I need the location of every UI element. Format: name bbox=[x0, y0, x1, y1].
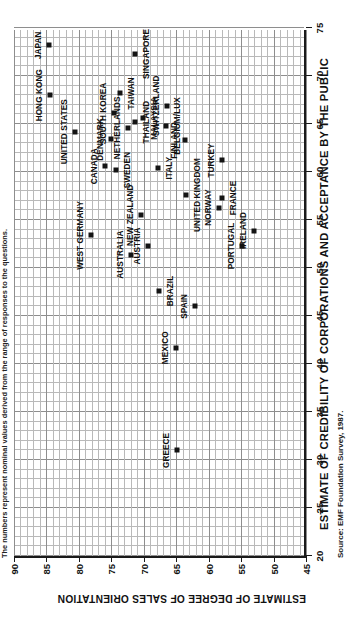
data-point-marker[interactable] bbox=[193, 304, 198, 309]
data-point-marker[interactable] bbox=[174, 448, 179, 453]
data-point-label: MEXICO bbox=[161, 331, 170, 364]
y-axis-tick bbox=[14, 556, 15, 562]
y-axis-tick bbox=[241, 556, 242, 562]
data-point-marker[interactable] bbox=[138, 213, 143, 218]
data-point-marker[interactable] bbox=[48, 93, 53, 98]
gridline-horizontal bbox=[222, 30, 223, 556]
data-point-marker[interactable] bbox=[102, 164, 107, 169]
data-point-marker[interactable] bbox=[47, 43, 52, 48]
data-point-marker[interactable] bbox=[165, 103, 170, 108]
data-point-label: AUSTRIA bbox=[133, 227, 142, 264]
data-point-marker[interactable] bbox=[133, 51, 138, 56]
gridline-horizontal bbox=[196, 30, 197, 556]
data-point-marker[interactable] bbox=[164, 123, 169, 128]
data-point-label: SWEDEN bbox=[122, 152, 131, 189]
gridline-horizontal bbox=[287, 30, 288, 556]
data-point-marker[interactable] bbox=[146, 243, 151, 248]
gridline-horizontal bbox=[72, 30, 73, 556]
data-point-marker[interactable] bbox=[89, 233, 94, 238]
data-point-marker[interactable] bbox=[217, 205, 222, 210]
gridline-horizontal bbox=[53, 30, 54, 556]
gridline-horizontal bbox=[202, 30, 203, 556]
y-axis-tick-label: 90 bbox=[9, 564, 20, 590]
chart-rotated-wrapper: The numbers represent nominal values der… bbox=[0, 0, 364, 618]
data-point-label: JAPAN bbox=[34, 31, 43, 59]
gridline-horizontal bbox=[293, 30, 294, 556]
gridline-horizontal bbox=[280, 30, 281, 556]
data-point-label: CANADA bbox=[89, 148, 98, 184]
gridline-vertical bbox=[14, 27, 304, 28]
data-point-marker[interactable] bbox=[219, 195, 224, 200]
data-point-label: ITALY bbox=[165, 157, 174, 180]
data-point-marker[interactable] bbox=[174, 345, 179, 350]
gridline-horizontal bbox=[137, 30, 138, 556]
x-axis-tick bbox=[306, 171, 312, 172]
gridline-horizontal bbox=[241, 30, 242, 556]
y-axis-tick-label: 45 bbox=[301, 564, 312, 590]
x-axis-tick bbox=[306, 27, 312, 28]
gridline-horizontal bbox=[20, 30, 21, 556]
y-axis-tick bbox=[46, 556, 47, 562]
data-point-label: FINLAND bbox=[170, 122, 179, 159]
gridline-horizontal bbox=[27, 30, 28, 556]
data-point-label: WEST GERMANY bbox=[76, 201, 85, 270]
x-axis-tick bbox=[306, 123, 312, 124]
data-point-label: TURKEY bbox=[206, 143, 215, 177]
plot-area: 2025303540455055606570754550556065707580… bbox=[14, 30, 306, 558]
gridline-horizontal bbox=[228, 30, 229, 556]
data-point-marker[interactable] bbox=[183, 193, 188, 198]
gridline-horizontal bbox=[261, 30, 262, 556]
gridline-horizontal bbox=[267, 30, 268, 556]
y-axis-tick-label: 50 bbox=[268, 564, 279, 590]
data-point-marker[interactable] bbox=[125, 125, 130, 130]
gridline-horizontal bbox=[306, 30, 307, 556]
y-axis-tick bbox=[144, 556, 145, 562]
gridline-horizontal bbox=[79, 30, 80, 556]
gridline-horizontal bbox=[85, 30, 86, 556]
x-axis-tick bbox=[306, 219, 312, 220]
y-axis-tick-label: 65 bbox=[171, 564, 182, 590]
data-point-label: SWITZERLAND bbox=[152, 75, 161, 136]
y-axis-tick bbox=[79, 556, 80, 562]
data-point-marker[interactable] bbox=[156, 166, 161, 171]
data-point-label: UNITED KINGDOM bbox=[192, 158, 201, 232]
gridline-horizontal bbox=[124, 30, 125, 556]
y-axis-tick-label: 85 bbox=[41, 564, 52, 590]
data-point-label: TAIWAN bbox=[126, 77, 135, 109]
data-point-label: NETHERLANDS bbox=[112, 96, 121, 159]
data-point-label: AUSTRALIA bbox=[115, 230, 124, 278]
data-point-marker[interactable] bbox=[132, 120, 137, 125]
data-point-marker[interactable] bbox=[219, 158, 224, 163]
data-point-marker[interactable] bbox=[117, 91, 122, 96]
gridline-horizontal bbox=[274, 30, 275, 556]
data-point-marker[interactable] bbox=[183, 138, 188, 143]
data-point-label: SINGAPORE bbox=[142, 29, 151, 79]
y-axis-tick-label: 75 bbox=[106, 564, 117, 590]
data-point-marker[interactable] bbox=[113, 168, 118, 173]
gridline-horizontal bbox=[254, 30, 255, 556]
y-axis-title: ESTIMATE OF DEGREE OF SALES ORIENTATION bbox=[57, 593, 306, 604]
y-axis-tick bbox=[209, 556, 210, 562]
gridline-horizontal bbox=[235, 30, 236, 556]
x-axis-title: ESTIMATE OF CREDIBILITY OF CORPORATIONS … bbox=[318, 30, 330, 558]
chart-canvas: The numbers represent nominal values der… bbox=[0, 0, 364, 618]
gridline-horizontal bbox=[189, 30, 190, 556]
data-point-marker[interactable] bbox=[141, 116, 146, 121]
gridline-horizontal bbox=[14, 30, 15, 556]
x-axis-tick bbox=[306, 507, 312, 508]
x-axis-tick bbox=[306, 315, 312, 316]
x-axis-tick bbox=[306, 459, 312, 460]
data-point-label: SPAIN bbox=[180, 294, 189, 319]
x-axis-tick bbox=[306, 411, 312, 412]
x-axis-tick bbox=[306, 75, 312, 76]
gridline-horizontal bbox=[92, 30, 93, 556]
gridline-horizontal bbox=[209, 30, 210, 556]
y-axis-tick-label: 55 bbox=[236, 564, 247, 590]
data-point-label: PORTUGAL bbox=[226, 223, 235, 270]
data-point-marker[interactable] bbox=[72, 129, 77, 134]
y-axis-tick bbox=[274, 556, 275, 562]
data-point-marker[interactable] bbox=[252, 228, 257, 233]
data-point-marker[interactable] bbox=[157, 289, 162, 294]
data-point-label: NORWAY bbox=[204, 189, 213, 226]
gridline-horizontal bbox=[215, 30, 216, 556]
